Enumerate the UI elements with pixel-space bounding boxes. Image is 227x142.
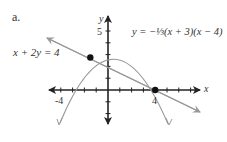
intersection-point xyxy=(87,54,93,60)
intersection-point xyxy=(152,87,158,93)
graph xyxy=(0,0,227,142)
line-label: x + 2y = 4 xyxy=(13,46,60,58)
tick-label-y-5: 5 xyxy=(97,26,102,37)
tick-label-x-4: 4 xyxy=(152,95,157,106)
ticks xyxy=(61,31,191,114)
x-axis-label: x xyxy=(204,83,208,94)
parabola-series xyxy=(60,59,168,124)
parabola-label: y = −⅓(x + 3)(x − 4) xyxy=(132,26,222,37)
tick-label-x-neg4: -4 xyxy=(55,95,63,106)
y-axis-label: y xyxy=(99,13,103,24)
part-label: a. xyxy=(12,10,20,25)
